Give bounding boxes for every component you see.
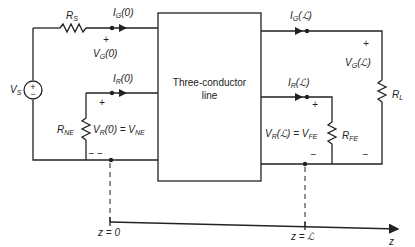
node-dot xyxy=(305,29,309,33)
current-ir0-label: IR(0) xyxy=(113,73,133,85)
far-end-resistor-label: RFE xyxy=(342,130,359,142)
svg-text:+: + xyxy=(363,38,369,49)
zL-label: z = ℒ xyxy=(290,231,315,242)
current-arrow-icon xyxy=(295,27,303,35)
z-axis: z = 0 z = ℒ z xyxy=(97,217,398,247)
source-resistor xyxy=(60,24,86,32)
current-arrow-icon xyxy=(119,89,127,97)
voltage-source: + − VS xyxy=(10,81,42,99)
near-end-resistor-label: RNE xyxy=(57,124,74,136)
svg-text:+: + xyxy=(312,99,318,110)
far-end-resistor xyxy=(328,122,336,144)
current-irL-label: IR(ℒ) xyxy=(288,77,310,89)
near-end-resistor xyxy=(82,118,90,140)
circuit-diagram: Three-conductor line + − VS RS RNE xyxy=(0,0,415,247)
svg-text:+: + xyxy=(103,34,109,45)
svg-text:−: − xyxy=(310,149,316,160)
voltage-vgL-label: VG(ℒ) xyxy=(345,57,371,69)
voltage-vg0-label: VG(0) xyxy=(93,48,117,60)
node-dot xyxy=(110,26,114,30)
current-ig0-label: IG(0) xyxy=(113,7,133,19)
z-axis-label: z xyxy=(388,236,394,247)
current-arrow-icon xyxy=(295,93,303,101)
block-label-line1: Three-conductor xyxy=(173,77,247,88)
source-resistor-label: RS xyxy=(66,10,78,22)
voltage-vrL-label: VR(ℒ) = VFE xyxy=(265,128,318,140)
svg-text:+: + xyxy=(99,97,105,108)
node-dot xyxy=(303,162,307,166)
three-conductor-line-block: Three-conductor line xyxy=(158,13,261,181)
current-igL-label: IG(ℒ) xyxy=(290,10,312,22)
node-dot xyxy=(109,158,113,162)
svg-text:−: − xyxy=(362,149,368,160)
z0-label: z = 0 xyxy=(97,227,120,238)
svg-text:−: − xyxy=(30,89,35,99)
source-label: VS xyxy=(10,84,22,96)
node-dot xyxy=(305,95,309,99)
node-dot xyxy=(110,91,114,95)
svg-text:− −: − − xyxy=(88,148,103,159)
block-label-line2: line xyxy=(202,90,218,101)
current-arrow-icon xyxy=(119,24,127,32)
load-resistor xyxy=(378,80,386,102)
load-resistor-label: RL xyxy=(392,89,403,101)
near-end-source-circuit xyxy=(33,24,158,160)
voltage-vr0-label: VR(0) = VNE xyxy=(93,124,145,136)
